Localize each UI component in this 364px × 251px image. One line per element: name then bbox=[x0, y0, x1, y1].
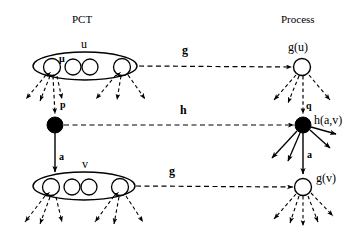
edge-label-p: p bbox=[60, 100, 66, 110]
lower-right-member-fanout bbox=[95, 196, 143, 224]
map-g-top bbox=[139, 66, 292, 67]
upper-member-label-mu: μ bbox=[59, 54, 65, 64]
right-black-node bbox=[295, 117, 311, 133]
column-header-pct: PCT bbox=[72, 14, 92, 25]
upper-left-member-fanout bbox=[26, 75, 62, 101]
map-label-g-top: g bbox=[182, 44, 188, 56]
lower-left-member-fanout bbox=[25, 196, 62, 224]
left-black-node bbox=[47, 117, 63, 133]
right-gv-fanout bbox=[274, 193, 333, 226]
lower-set-label: v bbox=[82, 158, 88, 170]
right-gu-fanout bbox=[274, 75, 330, 103]
lower-set-members bbox=[43, 179, 129, 196]
column-header-process: Process bbox=[281, 14, 315, 25]
edge-p-dashed bbox=[53, 76, 55, 114]
right-node-gu bbox=[294, 59, 311, 76]
right-node-label-gu: g(u) bbox=[288, 41, 308, 53]
right-node-label-gv: g(v) bbox=[316, 172, 336, 184]
upper-set-members bbox=[44, 59, 131, 76]
map-g-bottom bbox=[136, 186, 293, 187]
diagram-canvas: PCT Process u μ p a v g h g g(u) q h(a,v… bbox=[0, 0, 364, 251]
right-black-node-label: h(a,v) bbox=[314, 114, 342, 126]
edge-label-q: q bbox=[306, 101, 312, 111]
map-label-h: h bbox=[180, 104, 187, 116]
edge-label-a-right: a bbox=[307, 150, 312, 160]
upper-set-label: u bbox=[81, 38, 87, 50]
edge-label-a-left: a bbox=[59, 152, 64, 162]
right-node-gv bbox=[295, 179, 312, 196]
diagram-graphics bbox=[0, 0, 364, 251]
map-label-g-bottom: g bbox=[169, 165, 175, 177]
